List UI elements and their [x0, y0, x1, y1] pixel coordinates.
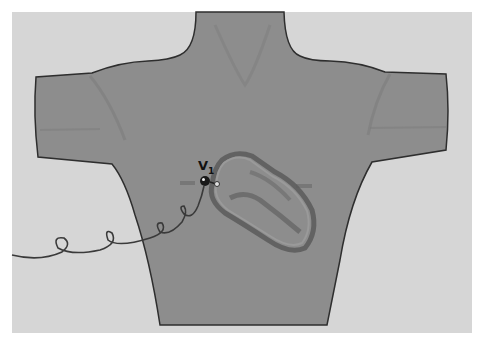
torso-diagram — [0, 0, 485, 349]
electrode-label: V1 — [198, 158, 214, 176]
torso-outline — [35, 12, 448, 325]
electrode-label-subscript: 1 — [208, 166, 214, 176]
arm-crease-left — [40, 129, 100, 130]
electrode-label-main: V — [198, 158, 208, 173]
electrode-icon — [200, 176, 210, 186]
arm-crease-right — [370, 127, 446, 128]
